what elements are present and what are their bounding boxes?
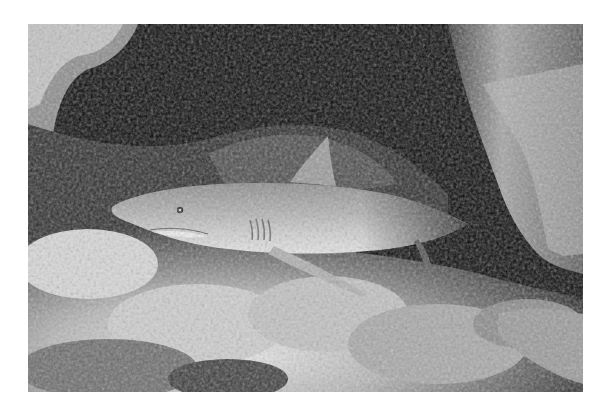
shark-photograph	[28, 24, 583, 392]
photo-scene	[28, 24, 583, 392]
